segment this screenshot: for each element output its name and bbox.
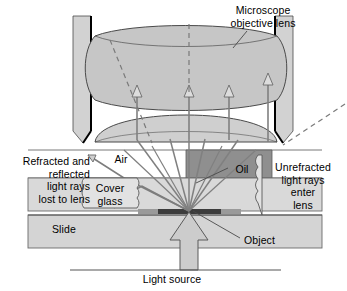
- label-oil: Oil: [229, 163, 255, 176]
- optics-diagram-svg: [0, 0, 347, 291]
- label-slide: Slide: [52, 223, 92, 236]
- label-microscope-objective-lens: Microscope objective lens: [207, 4, 319, 29]
- diagram-canvas: Microscope objective lens Refracted and …: [0, 0, 347, 291]
- label-refracted-reflected-lost: Refracted and reflected light rays lost …: [4, 155, 90, 205]
- label-cover-glass: Cover glass: [89, 182, 131, 207]
- label-air: Air: [104, 153, 138, 166]
- label-unrefracted-rays-enter-lens: Unrefracted light rays enter lens: [263, 161, 343, 211]
- label-object: Object: [244, 234, 294, 247]
- objective-lens-upper-element: [85, 26, 287, 111]
- objective-lens-lower-element: [95, 115, 277, 142]
- label-light-source: Light source: [122, 273, 222, 286]
